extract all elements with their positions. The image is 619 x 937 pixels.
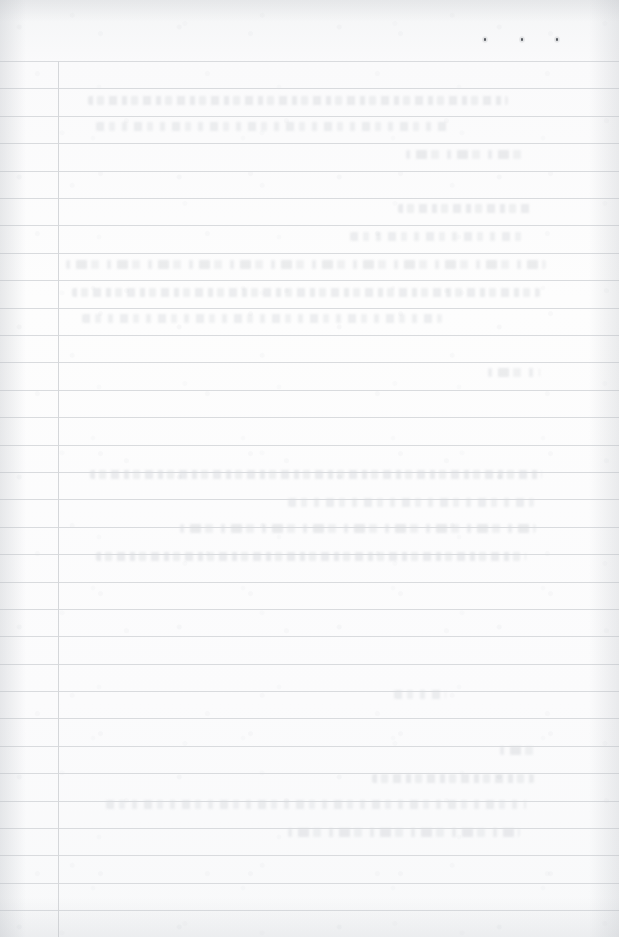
scan-tone-gradient: [0, 0, 619, 937]
header-band: [0, 0, 619, 61]
scanned-page: [0, 0, 619, 937]
